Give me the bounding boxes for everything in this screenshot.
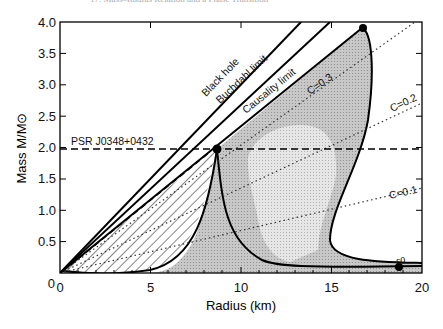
x-axis-label: Radius (km): [206, 298, 276, 313]
y-tick-0.5: 0.5: [38, 234, 56, 249]
y-tick-2.0: 2.0: [38, 140, 56, 155]
y-tick-3.5: 3.5: [38, 46, 56, 61]
marker-max: [359, 24, 367, 32]
x-tick-5: 5: [147, 280, 154, 295]
y-tick-3.0: 3.0: [38, 77, 56, 92]
y-tick-4.0: 4.0: [38, 15, 56, 30]
psr-label: PSR J0348+0432: [71, 135, 154, 147]
x-tick-15: 15: [324, 280, 338, 295]
y-tick-1.5: 1.5: [38, 171, 56, 186]
y-tick-0: 0: [48, 276, 55, 291]
mass-radius-chart: 0 5 10 15 20 0 0.5 1.0 1.5 2.0 2.5 3.0 3…: [0, 0, 443, 329]
y-axis-label: Mass M/M⊙: [14, 113, 29, 184]
eps0-label: ε0: [396, 255, 405, 266]
y-tick-2.5: 2.5: [38, 109, 56, 124]
c01-label: C=0.1: [388, 183, 418, 201]
c02-label: C=0.2: [388, 91, 419, 114]
x-tick-0: 0: [56, 280, 63, 295]
x-tick-20: 20: [415, 280, 429, 295]
x-tick-10: 10: [234, 280, 248, 295]
y-tick-1.0: 1.0: [38, 203, 56, 218]
marker-psr: [213, 145, 222, 154]
